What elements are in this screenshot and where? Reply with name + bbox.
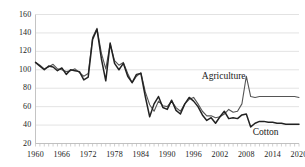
- y-tick-label-60: 60: [8, 102, 32, 111]
- axis-lines: [36, 15, 300, 144]
- y-tick-label-140: 140: [8, 28, 32, 37]
- series-line-agriculture: [36, 28, 300, 117]
- series-line-cotton: [36, 29, 300, 127]
- y-tick-label-40: 40: [8, 120, 32, 129]
- y-tick-label-80: 80: [8, 83, 32, 92]
- chart-plot-area: [0, 0, 305, 167]
- y-tick-label-120: 120: [8, 46, 32, 55]
- x-axis-ticks: [36, 144, 300, 147]
- y-tick-label-100: 100: [8, 65, 32, 74]
- line-chart: 20406080100120140160 1960196619721978198…: [0, 0, 305, 167]
- gridlines: [36, 15, 300, 144]
- series-annotation-cotton: Cotton: [253, 127, 279, 137]
- y-tick-label-160: 160: [8, 10, 32, 19]
- series-annotation-agriculture: Agriculture: [202, 71, 246, 81]
- x-tick-label-2020: 2020: [284, 150, 305, 159]
- series-lines: [36, 28, 300, 127]
- y-tick-label-20: 20: [8, 139, 32, 148]
